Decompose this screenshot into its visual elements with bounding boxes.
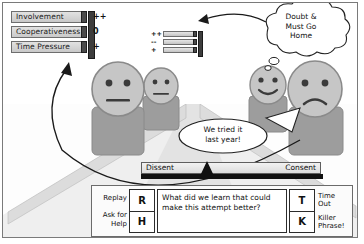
slider-time-pressure-value: +: [93, 41, 100, 53]
toolbar-right-labels: TimeOut KillerPhrase!: [315, 189, 349, 233]
mini-slider-3[interactable]: +: [163, 47, 205, 53]
mini-slider-1-bar[interactable]: [163, 31, 195, 37]
time-out-key-button[interactable]: T: [290, 190, 314, 212]
mini-slider-3-value: +: [151, 47, 156, 53]
slider-involvement-knob[interactable]: [81, 11, 87, 23]
slider-cooperativeness-label: Cooperativeness: [12, 28, 80, 36]
secondary-parameter-sliders[interactable]: ++ -- +: [163, 31, 205, 55]
replay-label: Replay: [95, 194, 127, 203]
figure-front-left: [92, 62, 144, 155]
slider-involvement-label: Involvement: [12, 13, 64, 21]
toolbar-left-keys: R H: [129, 189, 155, 233]
ask-for-help-label: Ask forHelp: [95, 211, 127, 228]
figure-back-left: [143, 68, 179, 130]
mini-slider-3-knob[interactable]: [193, 47, 197, 53]
action-toolbar: Replay Ask forHelp R H What did we learn…: [91, 185, 353, 237]
mini-slider-1-value: ++: [151, 31, 162, 37]
slider-cooperativeness[interactable]: Cooperativeness 0: [11, 26, 97, 38]
killer-phrase-key-button[interactable]: K: [290, 212, 314, 233]
toolbar-left-labels: Replay Ask forHelp: [95, 189, 129, 233]
consent-meter-shadow: [141, 174, 323, 179]
mini-slider-1[interactable]: ++: [163, 31, 205, 37]
slider-time-pressure-bar[interactable]: Time Pressure: [11, 41, 83, 53]
ask-for-help-key-button[interactable]: H: [130, 212, 154, 233]
mini-slider-2-value: --: [151, 39, 156, 45]
slider-cooperativeness-value: 0: [93, 26, 99, 38]
killer-phrase-label: KillerPhrase!: [318, 214, 349, 231]
consent-label: Consent: [281, 164, 320, 172]
slider-involvement-value: ++: [93, 11, 106, 23]
toolbar-right-keys: T K: [289, 189, 315, 233]
dissent-consent-meter[interactable]: Dissent Consent: [141, 162, 321, 174]
slider-time-pressure-knob[interactable]: [81, 41, 87, 53]
slider-cooperativeness-bar[interactable]: Cooperativeness: [11, 26, 83, 38]
figure-front-right: [288, 61, 343, 155]
parameter-sliders[interactable]: Involvement ++ Cooperativeness 0 Time Pr…: [11, 11, 97, 56]
mini-slider-1-knob[interactable]: [193, 31, 197, 37]
slider-time-pressure[interactable]: Time Pressure +: [11, 41, 97, 53]
slider-cooperativeness-knob[interactable]: [81, 26, 87, 38]
mini-slider-2-bar[interactable]: [163, 39, 195, 45]
time-out-label: TimeOut: [318, 192, 349, 209]
slider-involvement-bar[interactable]: Involvement: [11, 11, 83, 23]
mini-slider-2-knob[interactable]: [193, 39, 197, 45]
replay-key-button[interactable]: R: [130, 190, 154, 212]
mini-slider-3-bar[interactable]: [163, 47, 195, 53]
consent-meter-pointer: [200, 161, 214, 176]
slider-involvement[interactable]: Involvement ++: [11, 11, 97, 23]
dissent-label: Dissent: [142, 164, 178, 172]
reflection-question-text: What did we learn that could make this a…: [157, 189, 287, 233]
mini-slider-2[interactable]: --: [163, 39, 205, 45]
slider-time-pressure-label: Time Pressure: [12, 43, 70, 51]
screenshot-root: Involvement ++ Cooperativeness 0 Time Pr…: [0, 0, 364, 244]
